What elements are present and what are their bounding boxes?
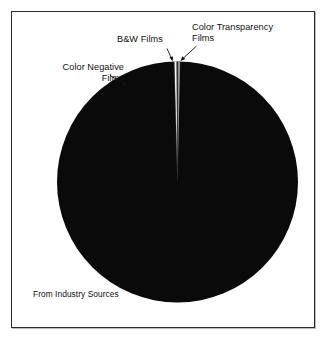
label-bw-films-text: B&W Films — [117, 34, 163, 44]
label-color-transparency-films-line1: Color Transparency — [192, 22, 273, 33]
label-color-negative-films: Color Negative Films — [27, 62, 124, 84]
label-color-negative-films-line2: Films — [27, 73, 124, 84]
arrowhead-bw-films — [169, 57, 173, 62]
label-color-transparency-films-line2: Films — [192, 33, 273, 44]
pie-chart-figure: B&W Films Color Transparency Films Color… — [0, 0, 330, 342]
label-color-negative-films-line1: Color Negative — [27, 62, 124, 73]
label-color-transparency-films: Color Transparency Films — [192, 22, 273, 44]
label-bw-films: B&W Films — [117, 34, 163, 45]
source-note: From Industry Sources — [33, 289, 119, 299]
